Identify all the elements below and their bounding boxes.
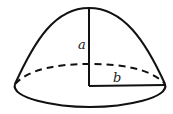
radius-segment-b: [89, 85, 165, 86]
label-b: b: [113, 71, 121, 84]
label-a: a: [78, 38, 86, 51]
paraboloid-figure: [0, 0, 173, 114]
base-ellipse-front: [15, 84, 166, 107]
paraboloid-diagram: a b: [0, 0, 173, 114]
